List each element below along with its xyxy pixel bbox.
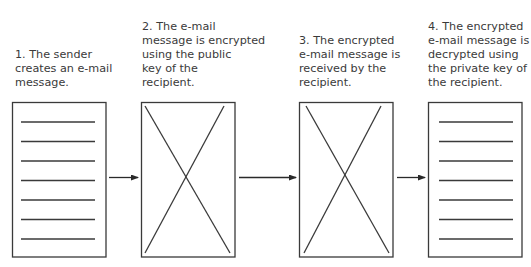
plaintext-document-icon	[13, 103, 107, 258]
encryption-flow-diagram	[0, 0, 531, 267]
decrypted-document-icon	[429, 103, 523, 258]
encrypted-document-icon	[300, 103, 394, 258]
encrypted-document-icon	[142, 103, 236, 258]
